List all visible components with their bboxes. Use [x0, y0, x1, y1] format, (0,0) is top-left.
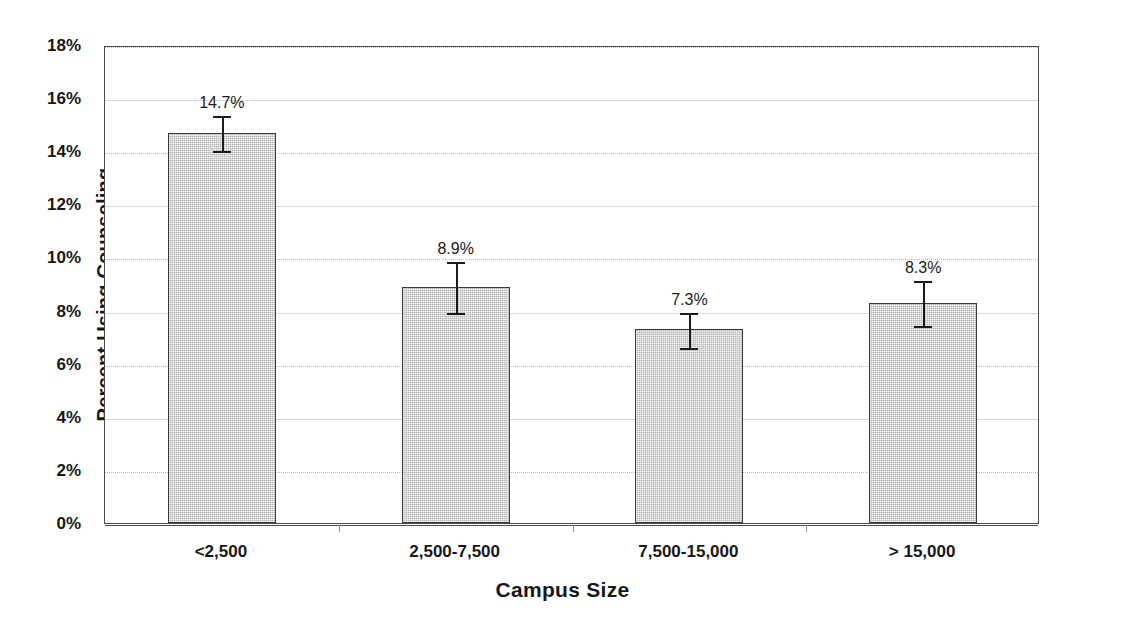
- bar-value-label: 7.3%: [629, 291, 749, 309]
- error-bar-stem: [222, 116, 224, 153]
- error-bar-cap-top: [213, 116, 231, 118]
- x-axis-tick-label: 2,500-7,500: [340, 542, 570, 562]
- bar: [869, 303, 977, 523]
- error-bar-stem: [689, 313, 691, 350]
- bar: [402, 287, 510, 523]
- y-axis-tick-label: 18%: [21, 36, 81, 56]
- bar-value-label: 14.7%: [162, 94, 282, 112]
- y-axis-tick-label: 16%: [21, 89, 81, 109]
- y-axis-tick-label: 12%: [21, 195, 81, 215]
- bar-value-label: 8.3%: [863, 259, 983, 277]
- x-axis-tick-label: > 15,000: [807, 542, 1037, 562]
- gridline: [105, 525, 1038, 526]
- y-axis-tick-label: 2%: [21, 461, 81, 481]
- y-axis-tick-label: 6%: [21, 355, 81, 375]
- bar: [168, 133, 276, 523]
- error-bar-cap-bottom: [447, 313, 465, 315]
- bar: [635, 329, 743, 523]
- error-bar-cap-bottom: [680, 348, 698, 350]
- error-bar-cap-top: [447, 262, 465, 264]
- bar-value-label: 8.9%: [396, 240, 516, 258]
- error-bar-cap-top: [914, 281, 932, 283]
- error-bar-stem: [456, 262, 458, 315]
- bar-chart: Percent Using Counseling 0%2%4%6%8%10%12…: [0, 0, 1125, 626]
- y-axis-tick-label: 8%: [21, 302, 81, 322]
- y-axis-tick-label: 4%: [21, 408, 81, 428]
- plot-area: 14.7%8.9%7.3%8.3%: [104, 46, 1039, 524]
- x-axis-tick-mark: [573, 525, 574, 532]
- x-axis-tick-mark: [806, 525, 807, 532]
- error-bar-cap-bottom: [213, 151, 231, 153]
- error-bar-cap-bottom: [914, 326, 932, 328]
- x-axis-title: Campus Size: [0, 578, 1125, 602]
- y-axis-tick-label: 10%: [21, 248, 81, 268]
- error-bar-stem: [923, 281, 925, 329]
- x-axis-tick-label: 7,500-15,000: [573, 542, 803, 562]
- error-bar-cap-top: [680, 313, 698, 315]
- gridline: [105, 47, 1038, 48]
- y-axis-tick-label: 14%: [21, 142, 81, 162]
- y-axis-tick-label: 0%: [21, 514, 81, 534]
- x-axis-tick-label: <2,500: [106, 542, 336, 562]
- x-axis-tick-mark: [339, 525, 340, 532]
